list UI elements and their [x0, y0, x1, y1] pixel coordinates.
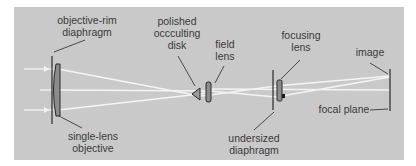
label-focusing-lens: focusing lens	[276, 29, 326, 53]
label-focal-plane: focal plane	[316, 103, 372, 115]
incoming-rays	[24, 69, 56, 110]
label-objective-rim-diaphragm: objective-rim diaphragm	[56, 14, 118, 38]
focusing-lens-mount	[282, 94, 285, 98]
label-field-lens: field lens	[210, 38, 240, 62]
label-undersized-diaphragm: undersized diaphragm	[222, 132, 286, 156]
label-single-lens-objective: single-lens objective	[64, 130, 122, 154]
occulting-disk	[192, 88, 200, 100]
label-image: image	[350, 46, 390, 58]
field-lens	[206, 82, 211, 102]
single-lens-objective	[54, 64, 61, 116]
label-polished-occulting-disk: polished occculting disk	[152, 15, 202, 51]
focusing-lens	[277, 80, 282, 101]
